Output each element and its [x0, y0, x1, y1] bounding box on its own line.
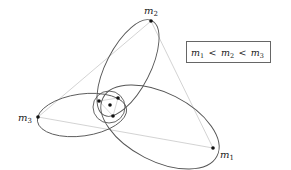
- three-body-diagram: m2 m3 m1 m1 < m2 < m3: [0, 0, 291, 170]
- inner-point-1: [97, 99, 101, 103]
- label-m1: m1: [220, 149, 234, 162]
- center-of-mass-point: [108, 103, 112, 107]
- body-m2-point: [149, 19, 153, 23]
- label-m3: m3: [18, 112, 32, 125]
- body-m1-point: [211, 146, 215, 150]
- orbit-m1: [88, 68, 233, 170]
- body-m3-point: [36, 115, 40, 119]
- inner-point-2: [116, 96, 120, 100]
- inner-point-3: [111, 114, 115, 118]
- orbit-m2: [84, 11, 171, 125]
- label-m2: m2: [144, 5, 158, 18]
- outer-triangle: [38, 21, 213, 148]
